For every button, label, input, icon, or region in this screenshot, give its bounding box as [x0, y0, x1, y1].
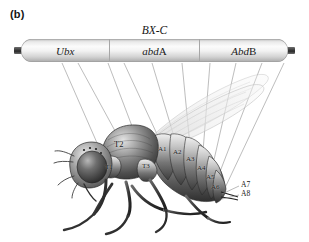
compound-eye	[77, 151, 107, 183]
fly-illustration	[0, 0, 309, 242]
segment-label-a5: A5	[206, 173, 215, 181]
segment-label-a1: A1	[158, 145, 167, 153]
segment-label-a7: A7	[241, 180, 250, 189]
segment-label-a6: A6	[211, 183, 220, 191]
segment-label-t1: T1	[105, 163, 113, 171]
segment-label-t2: T2	[114, 139, 123, 149]
segment-label-a2: A2	[173, 148, 182, 156]
segment-label-a4: A4	[197, 164, 206, 172]
segment-label-a8: A8	[241, 189, 250, 198]
head	[54, 142, 112, 201]
segment-label-t3: T3	[142, 162, 150, 170]
segment-label-a3: A3	[186, 155, 195, 163]
leader-line-ubx-t2	[78, 63, 120, 140]
figure-panel-b: (b) BX-C Ubx abdA AbdB	[0, 0, 309, 242]
